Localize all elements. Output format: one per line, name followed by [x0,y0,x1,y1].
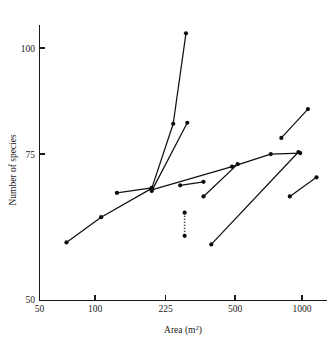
x-tick-label-500: 500 [228,304,243,314]
data-point [279,136,283,140]
x-tick-label-1000: 1000 [293,304,312,314]
chart-plot-area: 100 75 50 50 100 225 500 1000 Area (m2) … [0,0,331,345]
x-tick-label-50: 50 [35,304,45,314]
data-point [314,175,318,179]
data-point [178,183,182,187]
data-point [288,194,292,198]
data-point [150,188,154,192]
series-line-8 [281,109,308,138]
data-point [115,191,119,195]
data-point [183,234,187,238]
y-tick-label-100: 100 [21,44,36,54]
x-axis-title: Area (m2) [164,324,202,337]
series-line-5 [180,182,203,186]
data-point [201,180,205,184]
x-tick-label-225: 225 [158,304,173,314]
series-line-1 [66,33,186,242]
x-axis-title-close: ) [199,325,202,336]
data-point [184,31,188,35]
data-point [64,240,68,244]
data-point [269,152,273,156]
data-series-group [64,31,318,246]
y-tick-label-75: 75 [26,150,36,160]
series-line-9 [290,177,317,196]
y-axis-title: Number of species [8,134,18,206]
series-line-6 [204,164,238,196]
y-axis-ticks [40,48,46,301]
data-point [99,215,103,219]
data-point [296,150,300,154]
data-point [171,122,175,126]
data-point [236,162,240,166]
data-point [306,107,310,111]
x-tick-label-100: 100 [88,304,103,314]
series-line-2 [117,188,152,193]
data-point [201,194,205,198]
x-axis-title-base: Area (m [164,325,196,336]
species-area-chart: 100 75 50 50 100 225 500 1000 Area (m2) … [0,0,331,345]
data-point [209,242,213,246]
series-line-7 [211,152,298,244]
series-line-4 [152,153,300,190]
data-point [183,211,187,215]
data-point [185,121,189,125]
x-axis-ticks [40,295,303,301]
